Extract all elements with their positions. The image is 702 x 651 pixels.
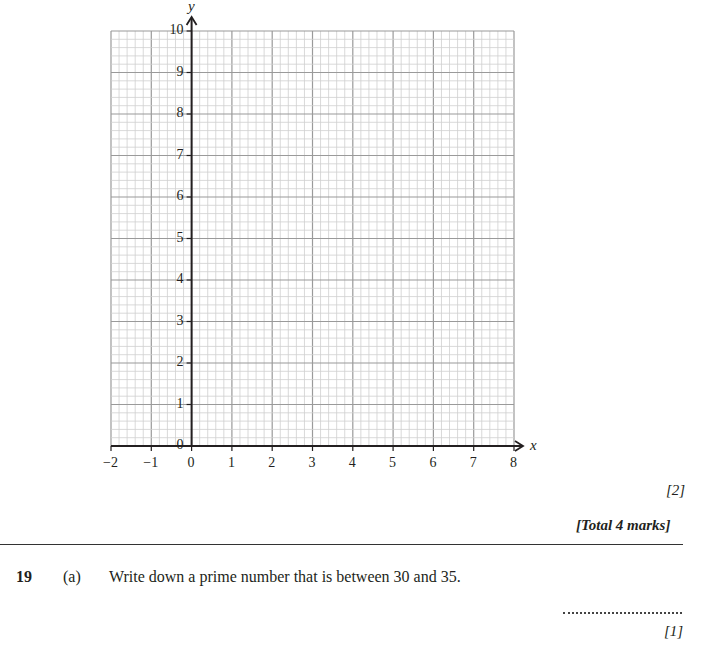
x-tick-label: 1 — [228, 456, 235, 470]
section-divider — [0, 544, 683, 545]
y-axis-name: y — [188, 0, 195, 15]
x-tick-label: 4 — [349, 456, 356, 470]
question-marks: [1] — [664, 623, 683, 640]
y-tick-label: 4 — [177, 272, 184, 286]
x-tick-label: 0 — [188, 456, 195, 470]
x-tick-label: 5 — [389, 456, 396, 470]
x-tick-label: −1 — [143, 456, 158, 470]
answer-line[interactable] — [563, 612, 682, 614]
x-tick-label: 6 — [429, 456, 436, 470]
question-number: 19 — [16, 568, 32, 586]
y-tick-label: 9 — [177, 65, 184, 79]
part-marks: [2] — [666, 482, 685, 499]
x-tick-label: 3 — [309, 456, 316, 470]
x-tick-label: −2 — [103, 456, 118, 470]
y-tick-label: 10 — [170, 23, 184, 37]
y-tick-label: 2 — [177, 355, 184, 369]
y-tick-label: 5 — [177, 231, 184, 245]
y-tick-label: 3 — [177, 314, 184, 328]
y-tick-label: 0 — [177, 438, 184, 452]
question-part: (a) — [63, 568, 81, 586]
y-tick-label: 1 — [177, 397, 184, 411]
y-tick-label: 6 — [177, 189, 184, 203]
total-marks: [Total 4 marks] — [576, 517, 670, 534]
y-tick-label: 8 — [177, 106, 184, 120]
y-tick-label: 7 — [177, 148, 184, 162]
x-axis-name: x — [530, 437, 537, 454]
question-text: Write down a prime number that is betwee… — [109, 568, 461, 586]
x-tick-label: 2 — [268, 456, 275, 470]
x-tick-label: 7 — [470, 456, 477, 470]
graph-grid — [0, 0, 702, 651]
x-tick-label: 8 — [510, 456, 517, 470]
